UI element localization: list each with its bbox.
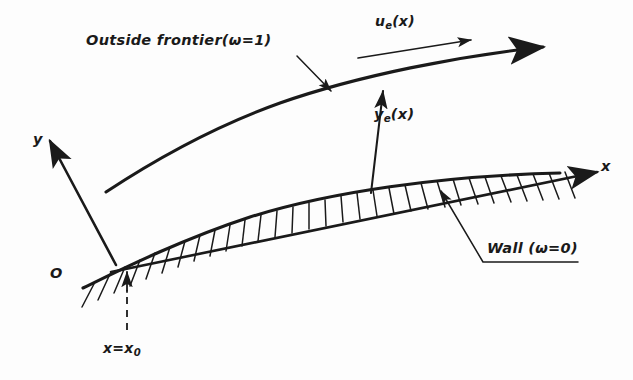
boundary-layer-thickness-label: ye(x) [374, 106, 414, 124]
x-axis-label: x [601, 158, 611, 174]
edge-velocity-arrow [358, 40, 471, 58]
diagram-canvas [0, 0, 633, 380]
edge-velocity-symbol: u [375, 13, 385, 29]
x-axis-line [111, 172, 597, 272]
thickness-argument: (x) [391, 106, 415, 122]
edge-velocity-label: ue(x) [375, 13, 415, 31]
boundary-layer-diagram: Outside frontier(ω=1) ue(x) ye(x) Wall (… [0, 0, 633, 380]
thickness-subscript: e [384, 112, 391, 124]
wall-label: Wall (ω=0) [487, 240, 578, 256]
edge-velocity-argument: (x) [392, 13, 415, 29]
outside-frontier-label: Outside frontier(ω=1) [86, 32, 271, 48]
y-axis-label: y [33, 131, 43, 147]
start-station-label: x=x0 [103, 340, 141, 358]
origin-label: O [50, 265, 63, 281]
start-station-subscript: 0 [134, 347, 141, 358]
thickness-symbol: y [374, 106, 384, 122]
outside-frontier-leader [297, 56, 331, 91]
wall-curve [83, 173, 560, 288]
y-axis-line [50, 141, 116, 265]
start-station-expression: x=x [103, 340, 134, 356]
outside-frontier-curve [106, 47, 543, 192]
